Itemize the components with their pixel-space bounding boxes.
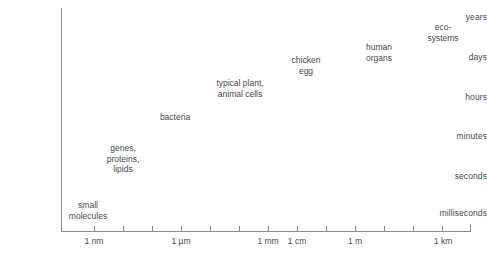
y-tick-label-days: days xyxy=(429,52,487,62)
x-tick-label-1-km: 1 km xyxy=(434,236,452,246)
data-point-typical-plant: typical plant, animal cells xyxy=(216,78,263,99)
x-tick-mark xyxy=(355,226,356,232)
x-tick-mark xyxy=(123,226,124,232)
x-tick-mark xyxy=(326,226,327,232)
x-tick-label-1-mm: 1 mm xyxy=(257,236,278,246)
y-tick-label-minutes: minutes xyxy=(429,131,487,141)
y-tick-label-milliseconds: milliseconds xyxy=(429,208,487,218)
x-tick-mark xyxy=(413,226,414,232)
x-tick-mark xyxy=(94,226,95,232)
data-point-genes: genes, proteins, lipids xyxy=(107,143,140,175)
x-tick-mark xyxy=(181,226,182,232)
x-tick-mark xyxy=(268,226,269,232)
data-point-human: human organs xyxy=(366,42,392,63)
data-point-chicken: chicken egg xyxy=(292,55,321,76)
x-tick-mark xyxy=(442,226,443,232)
x-tick-mark xyxy=(384,226,385,232)
y-tick-label-hours: hours xyxy=(429,92,487,102)
data-point-bacteria: bacteria xyxy=(160,112,190,123)
x-tick-mark xyxy=(210,226,211,232)
x-tick-mark xyxy=(470,224,471,232)
scale-of-life-chart: yearsdayshoursminutessecondsmilliseconds… xyxy=(0,0,487,255)
x-tick-mark xyxy=(152,226,153,232)
y-axis-line xyxy=(61,8,62,232)
x-tick-label-1-m: 1 m xyxy=(348,236,362,246)
x-tick-label-1-nm: 1 nm xyxy=(85,236,104,246)
x-tick-label-1-cm: 1 cm xyxy=(288,236,306,246)
x-tick-label-1-µm: 1 µm xyxy=(171,236,190,246)
y-tick-label-seconds: seconds xyxy=(429,171,487,181)
data-point-eco: eco- systems xyxy=(427,22,458,43)
y-tick-label-years: years xyxy=(429,12,487,22)
data-point-small: small molecules xyxy=(69,200,107,221)
x-tick-mark xyxy=(297,226,298,232)
x-tick-mark xyxy=(239,226,240,232)
